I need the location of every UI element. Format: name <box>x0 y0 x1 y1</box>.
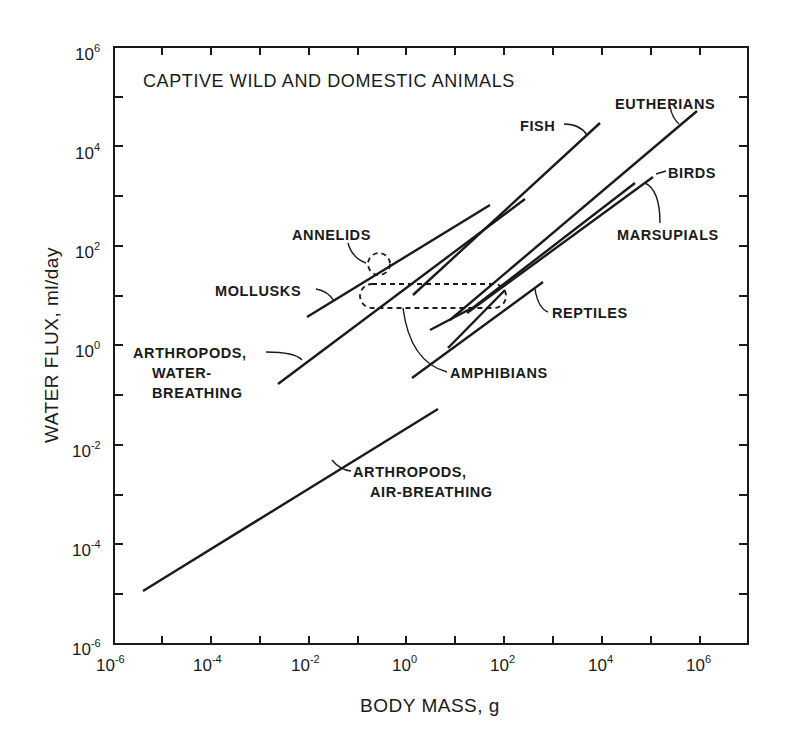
label-leaders <box>266 106 679 471</box>
svg-text:10-6: 10-6 <box>96 653 125 675</box>
svg-text:106: 106 <box>75 42 100 64</box>
line-marsupials <box>470 183 635 310</box>
svg-text:100: 100 <box>75 339 100 361</box>
leader-birds <box>656 171 666 174</box>
label-annelids: ANNELIDS <box>292 227 371 243</box>
plot-title: CAPTIVE WILD AND DOMESTIC ANIMALS <box>143 71 515 91</box>
svg-text:10-4: 10-4 <box>72 538 101 560</box>
label-marsupials: MARSUPIALS <box>617 227 719 243</box>
label-arthropods-air-2: AIR-BREATHING <box>370 484 493 500</box>
line-fish <box>413 123 600 295</box>
svg-text:10-2: 10-2 <box>72 439 101 461</box>
label-arthropods-water-1: ARTHROPODS, <box>133 345 247 361</box>
x-axis-title: BODY MASS, g <box>360 695 500 716</box>
label-mollusks: MOLLUSKS <box>215 283 301 299</box>
leader-arthropods-water <box>266 352 302 360</box>
svg-text:102: 102 <box>75 240 100 262</box>
y-axis-title: WATER FLUX, ml/day <box>41 247 62 443</box>
svg-text:100: 100 <box>392 653 417 675</box>
label-birds: BIRDS <box>668 165 716 181</box>
label-fish: FISH <box>520 118 555 134</box>
y-tick-labels: 106 104 102 100 10-2 10-4 10-6 <box>72 42 101 659</box>
label-reptiles: REPTILES <box>552 305 628 321</box>
leader-marsupials <box>645 183 660 223</box>
svg-text:10-2: 10-2 <box>291 653 320 675</box>
leader-amphibians <box>403 308 447 372</box>
svg-text:106: 106 <box>686 653 711 675</box>
label-amphibians: AMPHIBIANS <box>450 365 548 381</box>
amphibians-region <box>360 284 506 308</box>
svg-text:10-4: 10-4 <box>193 653 222 675</box>
label-arthropods-air-1: ARTHROPODS, <box>353 464 467 480</box>
svg-text:102: 102 <box>490 653 515 675</box>
svg-text:104: 104 <box>588 653 613 675</box>
leader-reptiles <box>535 289 548 312</box>
svg-text:104: 104 <box>75 141 100 163</box>
x-tick-labels: 10-6 10-4 10-2 100 102 104 106 <box>96 653 711 675</box>
line-birds <box>467 177 653 313</box>
label-eutherians: EUTHERIANS <box>615 96 715 112</box>
leader-annelids <box>348 243 366 263</box>
leader-mollusks <box>316 289 334 301</box>
line-mollusks <box>307 205 490 317</box>
leader-fish <box>564 124 587 135</box>
series-labels: EUTHERIANS FISH BIRDS MARSUPIALS ANNELID… <box>133 96 719 500</box>
log-log-chart: 10-6 10-4 10-2 100 102 104 106 106 104 1… <box>0 0 787 753</box>
line-arthropods-air <box>143 409 438 591</box>
line-amphibians-short <box>430 308 472 330</box>
label-arthropods-water-2: WATER- <box>152 365 212 381</box>
label-arthropods-water-3: BREATHING <box>152 385 243 401</box>
